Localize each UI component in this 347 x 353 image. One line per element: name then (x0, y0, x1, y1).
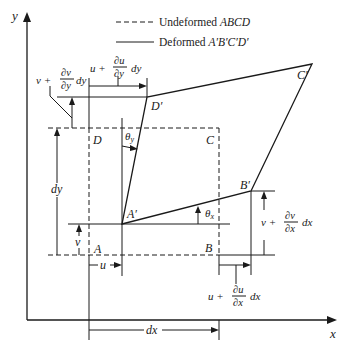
deformed-quad (122, 64, 312, 224)
dy-den-label: ∂y (114, 68, 124, 79)
u-plus-label: u + (90, 62, 106, 74)
dim-u-dx-arrow-icon (243, 262, 251, 268)
du-dx-num-label: ∂u (233, 284, 243, 295)
dim-dx-arrow-icon (211, 327, 219, 333)
point-A-label: A (93, 242, 102, 256)
dim-v: v (74, 224, 84, 255)
theta-x-arrow-icon (195, 206, 201, 213)
theta-x-label: θx (205, 207, 214, 221)
dim-dx-label: dx (146, 323, 158, 337)
dx-den-label: ∂x (285, 223, 295, 234)
du-label: ∂u (114, 55, 124, 66)
dv-dx-num-label: ∂v (285, 210, 295, 221)
axes: y x (10, 8, 337, 341)
point-D-prime-label: D′ (150, 99, 163, 113)
dim-u: u (89, 258, 122, 272)
point-A-prime-label: A′ (126, 207, 137, 221)
dim-v-dy-arrow-icon (69, 97, 75, 105)
legend-undeformed-label: Undeformed ABCD (159, 16, 251, 28)
v-plus-dx-label: v + (261, 216, 276, 228)
x-axis-arrow-icon (327, 316, 337, 324)
dim-u-arrow-icon (114, 262, 122, 268)
legend: Undeformed ABCD Deformed A′B′C′D′ (116, 16, 251, 48)
theta-x-angle: θx (195, 206, 214, 224)
dx-tail-label: dx (302, 216, 313, 228)
legend-deformed-label: Deformed A′B′C′D′ (159, 36, 249, 48)
dy-den-label-2: ∂y (61, 80, 71, 91)
dim-u-dy-arrow-icon (139, 83, 147, 89)
y-axis-arrow-icon (23, 12, 31, 22)
dv-label: ∂v (61, 67, 71, 78)
u-plus-dx-label: u + (208, 290, 224, 302)
dim-u-plus-du-dx: u + ∂u ∂x dx (208, 191, 261, 308)
v-plus-label: v + (36, 74, 51, 86)
dim-v-plus-dv-dx: v + ∂v ∂x dx (219, 191, 313, 255)
dy-tail-label: dy (131, 62, 142, 74)
deformed-element: A′ B′ C′ D′ (122, 64, 312, 224)
dim-u-label: u (100, 258, 106, 272)
point-B-label: B (205, 241, 213, 255)
point-B-prime-label: B′ (240, 178, 250, 192)
dx-den-label-2: ∂x (233, 297, 243, 308)
dim-v-label: v (75, 235, 81, 249)
dim-dy-arrow-icon (54, 128, 60, 136)
point-D-label: D (92, 133, 102, 147)
dim-v-arrow-icon (76, 224, 82, 232)
point-C-label: C (206, 133, 215, 147)
dx-tail-label-2: dx (250, 290, 261, 302)
dim-v-dx-arrow-icon (261, 191, 267, 199)
y-axis-label: y (10, 8, 18, 23)
x-axis-label: x (329, 326, 336, 341)
point-C-prime-label: C′ (297, 68, 308, 82)
theta-y-angle: θy (122, 130, 138, 151)
dim-dy: dy (48, 128, 66, 255)
dim-u-plus-du-dy: u + ∂u ∂y dy (89, 55, 147, 89)
deformation-diagram: y x Undeformed ABCD Deformed A′B′C′D′ D … (0, 0, 347, 353)
dy-tail-label-2: dy (76, 74, 87, 86)
theta-y-label: θy (125, 130, 134, 144)
dim-dy-label: dy (51, 182, 63, 196)
